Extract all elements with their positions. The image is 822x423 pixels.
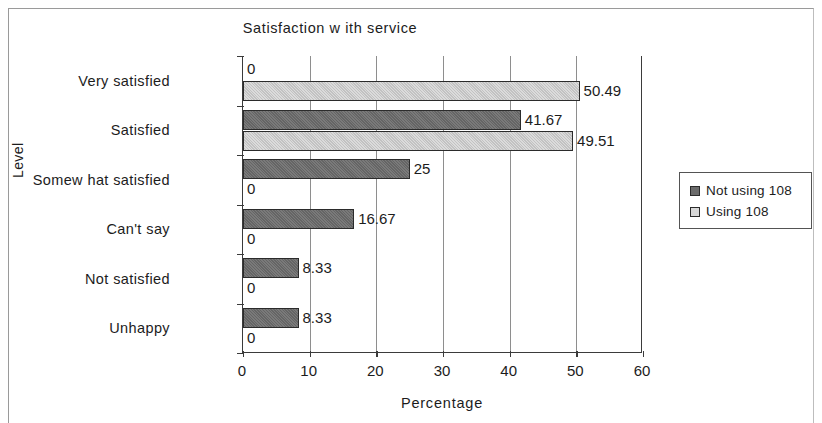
bar-not-using-108 (243, 308, 299, 328)
legend-label: Not using 108 (706, 183, 792, 198)
chart-legend: Not using 108 Using 108 (679, 172, 812, 229)
bar-value-label: 50.49 (584, 81, 622, 101)
chart-title: Satisfaction w ith service (0, 20, 660, 36)
legend-swatch-dark-icon (690, 186, 700, 196)
y-axis-tick-label: Can't say (106, 221, 170, 237)
plot-right-border (641, 56, 642, 352)
x-axis-tick-label: 20 (367, 362, 384, 379)
bar-value-label: 8.33 (303, 308, 332, 328)
chart-screenshot: Satisfaction w ith service Level Percent… (0, 0, 822, 423)
x-axis-tick-label: 60 (634, 362, 651, 379)
legend-swatch-light-icon (690, 207, 700, 217)
bar-using-108 (243, 81, 580, 101)
x-axis-tick-label: 30 (434, 362, 451, 379)
plot-area: 050.4941.6749.5125016.6708.3308.330 (242, 56, 642, 353)
y-axis-tick (237, 155, 244, 156)
bar-value-label: 8.33 (303, 258, 332, 278)
legend-label: Using 108 (706, 204, 769, 219)
bar-using-108 (243, 131, 573, 151)
bar-not-using-108 (243, 159, 410, 179)
x-axis-tick-label: 50 (567, 362, 584, 379)
y-axis-tick (237, 304, 244, 305)
bar-value-label: 0 (247, 179, 255, 199)
y-axis-tick (237, 353, 244, 354)
y-axis-tick-label: Somew hat satisfied (33, 172, 170, 188)
x-axis-tick-label: 10 (300, 362, 317, 379)
legend-item-using-108: Using 108 (690, 201, 811, 222)
legend-item-not-using-108: Not using 108 (690, 180, 811, 201)
bar-value-label: 0 (247, 278, 255, 298)
bar-not-using-108 (243, 110, 521, 130)
x-axis-tick (443, 351, 444, 357)
x-axis-title: Percentage (242, 395, 642, 411)
bar-value-label: 49.51 (577, 131, 615, 151)
x-axis-tick-label: 40 (500, 362, 517, 379)
x-axis-tick (643, 351, 644, 357)
y-axis-title: Level (10, 143, 26, 178)
bar-value-label: 0 (247, 59, 255, 79)
y-axis-tick (237, 56, 244, 57)
bar-value-label: 0 (247, 229, 255, 249)
y-axis-tick-label: Satisfied (111, 122, 170, 138)
y-axis-tick (237, 205, 244, 206)
x-axis-tick (310, 351, 311, 357)
bar-value-label: 0 (247, 328, 255, 348)
bar-value-label: 25 (414, 159, 431, 179)
bar-value-label: 41.67 (525, 110, 563, 130)
bar-value-label: 16.67 (358, 209, 396, 229)
y-axis-tick-label: Not satisfied (85, 271, 170, 287)
bar-not-using-108 (243, 209, 354, 229)
y-axis-tick-label: Very satisfied (78, 73, 170, 89)
x-axis-tick (576, 351, 577, 357)
x-axis-tick (510, 351, 511, 357)
x-axis-tick-label: 0 (238, 362, 246, 379)
y-axis-tick (237, 254, 244, 255)
y-axis-tick-label: Unhappy (109, 320, 170, 336)
bar-not-using-108 (243, 258, 299, 278)
x-axis-tick (376, 351, 377, 357)
y-axis-tick (237, 106, 244, 107)
